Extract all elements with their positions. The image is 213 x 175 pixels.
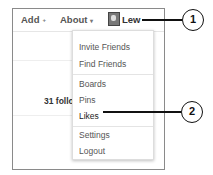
menu-item-logout[interactable]: Logout bbox=[79, 146, 105, 156]
about-menu-button[interactable]: About▾ bbox=[60, 14, 93, 25]
divider bbox=[13, 115, 73, 116]
callout-line-2 bbox=[103, 111, 181, 113]
plus-icon: + bbox=[42, 17, 46, 23]
menu-separator bbox=[73, 74, 153, 75]
user-dropdown-menu: Invite Friends Find Friends Boards Pins … bbox=[72, 30, 154, 160]
user-menu-button[interactable]: Lew bbox=[122, 14, 140, 25]
followers-count[interactable]: 31 followers bbox=[44, 96, 72, 106]
callout-2: 2 bbox=[181, 101, 203, 123]
divider bbox=[13, 60, 73, 61]
avatar[interactable] bbox=[108, 12, 120, 26]
chevron-down-icon: ▾ bbox=[90, 18, 93, 24]
add-menu-button[interactable]: Add+ bbox=[21, 14, 46, 25]
menu-item-pins[interactable]: Pins bbox=[79, 95, 96, 105]
about-label: About bbox=[60, 14, 87, 25]
menu-item-invite-friends[interactable]: Invite Friends bbox=[79, 42, 130, 52]
menu-item-likes[interactable]: Likes bbox=[79, 111, 99, 121]
callout-1: 1 bbox=[182, 9, 204, 31]
callout-line-1 bbox=[142, 19, 182, 21]
menu-item-boards[interactable]: Boards bbox=[79, 79, 106, 89]
add-label: Add bbox=[21, 14, 39, 25]
menu-separator bbox=[73, 126, 153, 127]
menu-item-settings[interactable]: Settings bbox=[79, 130, 110, 140]
menu-item-find-friends[interactable]: Find Friends bbox=[79, 59, 126, 69]
